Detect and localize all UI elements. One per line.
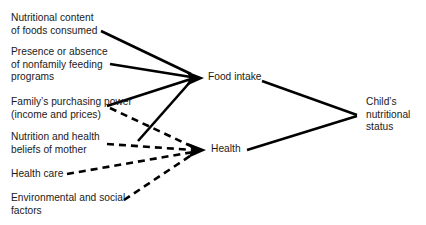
node-presence-or-absence-of-nonfamily-feeding-programs: Presence or absence of nonfamily feeding…	[11, 46, 108, 84]
edge-purchasing-power-to-food-intake	[138, 81, 191, 141]
node-food-intake: Food intake	[208, 71, 261, 84]
edge-nonfamily-feeding-to-food-intake	[110, 64, 191, 77]
arrowhead-health	[188, 143, 206, 158]
edge-nutritional-content-to-food-intake	[101, 31, 191, 74]
node-environmental-and-social-factors: Environmental and social factors	[11, 192, 125, 217]
edge-beliefs-of-mother-to-health	[107, 144, 193, 150]
outcome-edge-group	[247, 81, 357, 150]
node-childs-nutritional-status: Child’s nutritional status	[366, 96, 410, 134]
edge-health-to-child-status	[247, 116, 357, 150]
diagram-canvas: Nutritional content of foods consumed Pr…	[0, 0, 426, 225]
node-health: Health	[211, 143, 241, 156]
edge-environmental-to-health	[124, 154, 193, 200]
node-nutrition-and-health-beliefs-of-mother: Nutrition and health beliefs of mother	[11, 131, 100, 156]
edge-food-intake-to-child-status	[262, 81, 357, 115]
node-nutritional-content-of-foods-consumed: Nutritional content of foods consumed	[11, 12, 97, 37]
node-health-care: Health care	[11, 168, 63, 181]
node-familys-purchasing-power: Family’s purchasing power (income and pr…	[11, 96, 132, 121]
